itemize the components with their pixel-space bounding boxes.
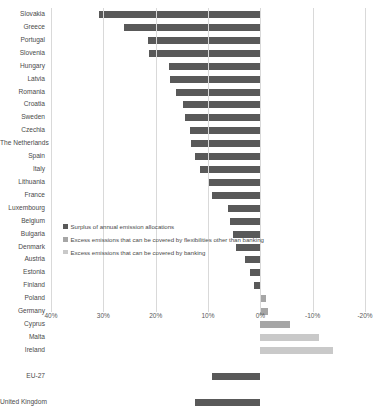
- axis-tick-label: 0%: [256, 312, 265, 319]
- axis-tick-label: -10%: [305, 312, 320, 319]
- chart-legend: Surplus of annual emission allocationsEx…: [63, 220, 273, 259]
- category-label: The Netherlands: [0, 137, 48, 150]
- bar: [260, 334, 319, 341]
- legend-label: Excess emissions that can be covered by …: [71, 236, 264, 243]
- category-label: Ireland: [0, 344, 48, 357]
- bar-row: [51, 370, 365, 383]
- category-label: Slovenia: [0, 47, 48, 60]
- gridline-40pct: [51, 8, 52, 312]
- legend-swatch-icon: [63, 224, 68, 229]
- gridline-10pct: [208, 8, 209, 312]
- legend-swatch-icon: [63, 237, 68, 242]
- bar: [99, 11, 260, 18]
- category-label: Lithuania: [0, 176, 48, 189]
- axis-tick-label: 40%: [44, 312, 57, 319]
- bar-row: [51, 344, 365, 357]
- plot-area: [51, 8, 365, 312]
- gridline-30pct: [103, 8, 104, 312]
- bar: [176, 89, 261, 96]
- category-label: Croatia: [0, 98, 48, 111]
- axis-tick-label: 20%: [149, 312, 162, 319]
- category-label: Romania: [0, 86, 48, 99]
- category-label: Luxembourg: [0, 202, 48, 215]
- bar: [228, 205, 260, 212]
- bar: [195, 399, 260, 406]
- bar: [185, 114, 260, 121]
- bar: [169, 63, 261, 70]
- legend-item: Surplus of annual emission allocations: [63, 220, 273, 233]
- legend-swatch-icon: [63, 250, 68, 255]
- axis-tick-label: 30%: [97, 312, 110, 319]
- category-label: Hungary: [0, 60, 48, 73]
- gridline-0pct: [260, 8, 261, 312]
- legend-label: Surplus of annual emission allocations: [71, 223, 175, 230]
- bar: [170, 76, 260, 83]
- legend-item: Excess emissions that can be covered by …: [63, 246, 273, 259]
- category-label: Belgium: [0, 215, 48, 228]
- bar-row: [51, 396, 365, 409]
- bar: [212, 192, 260, 199]
- bar: [190, 127, 261, 134]
- bar-row: [51, 383, 365, 396]
- bar: [260, 347, 332, 354]
- category-label: Czechia: [0, 124, 48, 137]
- bar: [195, 153, 260, 160]
- bar-row: [51, 357, 365, 370]
- bar-row: [51, 331, 365, 344]
- category-label: Latvia: [0, 73, 48, 86]
- gridline--10pct: [313, 8, 314, 312]
- axis-tick-label: -20%: [357, 312, 372, 319]
- category-label: Portugal: [0, 34, 48, 47]
- category-label: Bulgaria: [0, 228, 48, 241]
- bar: [183, 101, 260, 108]
- category-label: Austria: [0, 253, 48, 266]
- bar: [212, 373, 260, 380]
- legend-item: Excess emissions that can be covered by …: [63, 233, 273, 246]
- category-label: United Kingdom: [0, 396, 48, 409]
- category-label: Italy: [0, 163, 48, 176]
- category-label: Poland: [0, 292, 48, 305]
- bar: [250, 269, 260, 276]
- category-label: Estonia: [0, 266, 48, 279]
- category-label: Malta: [0, 331, 48, 344]
- category-label: Sweden: [0, 111, 48, 124]
- value-axis-labels: 40%30%20%10%0%-10%-20%: [0, 312, 371, 326]
- legend-label: Excess emissions that can be covered by …: [71, 249, 206, 256]
- bar: [200, 166, 260, 173]
- category-label: EU-27: [0, 370, 48, 383]
- bar: [149, 50, 260, 57]
- bar: [148, 37, 261, 44]
- category-label: Slovakia: [0, 8, 48, 21]
- bar: [209, 179, 260, 186]
- gridline--20pct: [365, 8, 366, 312]
- category-label: Greece: [0, 21, 48, 34]
- category-label: Finland: [0, 279, 48, 292]
- category-label: France: [0, 189, 48, 202]
- axis-tick-label: 10%: [201, 312, 214, 319]
- category-label: Denmark: [0, 241, 48, 254]
- bar: [124, 24, 260, 31]
- gridline-20pct: [156, 8, 157, 312]
- bar: [191, 140, 261, 147]
- category-label: Spain: [0, 150, 48, 163]
